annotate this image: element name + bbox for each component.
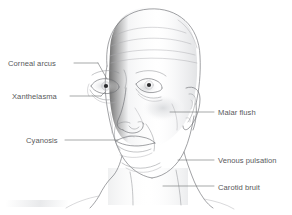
pupil-left bbox=[104, 84, 108, 88]
face-diagram-svg: Corneal arcus Xanthelasma Cyanosis Malar… bbox=[0, 0, 292, 215]
xanthelasma-plaque bbox=[88, 84, 90, 96]
head-shading bbox=[90, 7, 197, 205]
label-xanthelasma: Xanthelasma bbox=[12, 92, 58, 101]
leader-corneal-arcus-d bbox=[98, 63, 107, 79]
label-corneal-arcus: Corneal arcus bbox=[8, 59, 56, 68]
label-carotid-bruit: Carotid bruit bbox=[218, 183, 261, 192]
label-venous-pulsation: Venous pulsation bbox=[218, 156, 277, 165]
figure-container: Corneal arcus Xanthelasma Cyanosis Malar… bbox=[0, 0, 292, 215]
label-cyanosis: Cyanosis bbox=[26, 136, 58, 145]
neck-right-contour bbox=[184, 152, 213, 208]
pupil-right bbox=[147, 83, 151, 87]
malar-flush-shading bbox=[141, 94, 185, 122]
label-malar-flush: Malar flush bbox=[218, 108, 256, 117]
